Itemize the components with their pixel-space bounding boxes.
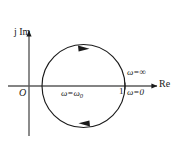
omega-w0-label: ω=ω0	[61, 89, 83, 100]
direction-arrow-bottom-icon	[79, 121, 91, 127]
omega-w0-subscript: 0	[80, 92, 83, 99]
unit-tick-label: 1	[119, 87, 124, 96]
nyquist-plot-figure: j Im Re O 1 ω=∞ ω=0 ω=ω0	[0, 0, 178, 142]
plot-canvas	[0, 0, 178, 142]
imaginary-axis-label: j Im	[14, 27, 30, 37]
direction-arrow-top-icon	[78, 46, 90, 52]
origin-label: O	[19, 88, 26, 98]
omega-infinity-label: ω=∞	[127, 68, 146, 77]
omega-zero-label: ω=0	[127, 88, 144, 97]
real-axis-label: Re	[159, 79, 170, 89]
omega-w0-text: ω=ω	[61, 88, 80, 98]
